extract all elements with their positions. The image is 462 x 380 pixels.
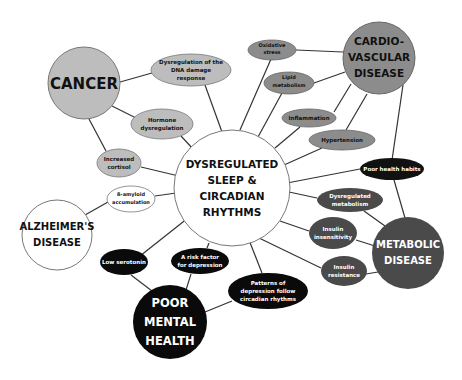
- svg-text:DISEASE: DISEASE: [33, 237, 81, 248]
- svg-text:Low serotonin: Low serotonin: [102, 259, 146, 265]
- svg-text:insensitivity: insensitivity: [314, 234, 352, 241]
- svg-text:for depression: for depression: [178, 262, 223, 269]
- mechanism-insulin-insensitivity: Insulin insensitivity: [309, 217, 357, 249]
- svg-text:circadian rhythms: circadian rhythms: [240, 296, 297, 303]
- svg-text:Patterns of: Patterns of: [251, 280, 286, 286]
- mechanism-dysregulated-metabolism: Dysregulated metabolism: [317, 188, 383, 212]
- svg-text:Dysregulation of the: Dysregulation of the: [159, 59, 223, 66]
- svg-text:ALZHEIMER'S: ALZHEIMER'S: [19, 221, 94, 232]
- svg-text:Inflammation: Inflammation: [288, 115, 329, 121]
- svg-text:DISEASE: DISEASE: [384, 255, 432, 266]
- svg-text:POOR: POOR: [152, 296, 189, 310]
- mechanism-oxidative-stress: Oxidative stress: [248, 40, 296, 60]
- mechanism-inflammation: Inflammation: [282, 109, 336, 127]
- mechanism-insulin-resistance: Insulin resistance: [321, 256, 367, 286]
- svg-text:Hypertension: Hypertension: [321, 137, 363, 144]
- svg-text:Lipid: Lipid: [282, 74, 296, 81]
- svg-text:stress: stress: [263, 49, 280, 55]
- cancer-label: CANCER: [50, 75, 118, 93]
- disease-metabolic: METABOLIC DISEASE: [372, 217, 444, 289]
- mechanism-hormone-dysregulation: Hormone dysregulation: [131, 109, 193, 139]
- svg-text:A risk factor: A risk factor: [181, 254, 219, 260]
- svg-text:METABOLIC: METABOLIC: [376, 239, 440, 250]
- svg-text:RHYTHMS: RHYTHMS: [203, 206, 261, 218]
- svg-text:SLEEP &: SLEEP &: [207, 174, 256, 186]
- mechanism-hypertension: Hypertension: [309, 130, 375, 150]
- svg-text:MENTAL: MENTAL: [144, 315, 197, 329]
- center-node: DYSREGULATED SLEEP & CIRCADIAN RHYTHMS: [174, 130, 290, 246]
- svg-text:metabolism: metabolism: [332, 201, 369, 207]
- svg-text:HEALTH: HEALTH: [145, 334, 194, 348]
- svg-text:Increased: Increased: [104, 156, 134, 162]
- svg-text:metabolism: metabolism: [273, 82, 306, 88]
- svg-text:response: response: [177, 75, 206, 82]
- disease-poor-mental-health: POOR MENTAL HEALTH: [133, 285, 207, 359]
- svg-text:VASCULAR: VASCULAR: [348, 51, 410, 63]
- mechanism-dna-damage: Dysregulation of the DNA damage response: [151, 54, 231, 86]
- svg-text:Oxidative: Oxidative: [259, 42, 287, 48]
- svg-text:DYSREGULATED: DYSREGULATED: [186, 158, 279, 170]
- svg-text:cortisol: cortisol: [107, 164, 130, 170]
- disease-cancer: CANCER: [48, 47, 120, 119]
- mechanism-risk-factor-depression: A risk factor for depression: [171, 248, 229, 274]
- mechanism-beta-amyloid: ß-amyloid accumulation: [107, 186, 155, 212]
- svg-text:ß-amyloid: ß-amyloid: [117, 191, 145, 198]
- svg-text:CIRCADIAN: CIRCADIAN: [199, 190, 264, 202]
- svg-text:depression follow: depression follow: [241, 288, 296, 295]
- svg-text:Poor health habits: Poor health habits: [363, 166, 421, 172]
- mechanism-increased-cortisol: Increased cortisol: [97, 149, 141, 177]
- sleep-disease-diagram: CANCER CARDIO- VASCULAR DISEASE ALZHEIME…: [0, 0, 462, 380]
- mechanism-low-serotonin: Low serotonin: [100, 249, 148, 275]
- disease-alzheimers: ALZHEIMER'S DISEASE: [19, 200, 94, 270]
- svg-text:Hormone: Hormone: [148, 117, 177, 123]
- svg-text:Insulin: Insulin: [334, 264, 355, 270]
- mechanism-poor-health-habits: Poor health habits: [360, 158, 424, 180]
- svg-text:Insulin: Insulin: [323, 226, 344, 232]
- svg-text:Dysregulated: Dysregulated: [329, 193, 371, 200]
- svg-text:CARDIO-: CARDIO-: [354, 35, 404, 47]
- disease-cardiovascular: CARDIO- VASCULAR DISEASE: [343, 22, 415, 94]
- mechanism-lipid-metabolism: Lipid metabolism: [264, 72, 314, 94]
- svg-text:accumulation: accumulation: [112, 199, 150, 205]
- svg-text:resistance: resistance: [328, 272, 360, 278]
- svg-text:DNA damage: DNA damage: [171, 67, 211, 74]
- svg-text:dysregulation: dysregulation: [141, 125, 184, 132]
- mechanism-depression-patterns: Patterns of depression follow circadian …: [228, 273, 308, 309]
- svg-text:DISEASE: DISEASE: [354, 67, 404, 79]
